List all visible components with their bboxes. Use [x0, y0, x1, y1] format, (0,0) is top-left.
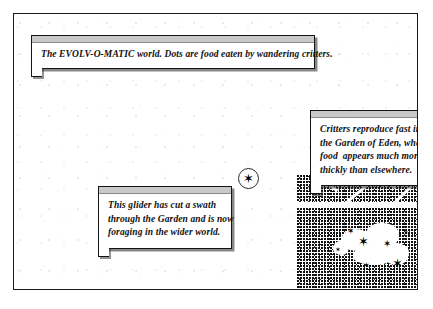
callout-line: thickly than elsewhere.: [320, 164, 418, 178]
callout-fold-corner: [98, 246, 109, 257]
critter-icon: ✶: [347, 227, 355, 236]
callout-glider-text: This glider has cut a swath through the …: [99, 194, 231, 248]
glider-marker: ✶: [238, 168, 259, 189]
callout-titlebar: [32, 36, 314, 43]
critter-icon: ✶: [335, 247, 341, 254]
critter-icon: ✶: [358, 235, 369, 248]
callout-titlebar: [99, 187, 231, 194]
callout-line: through the Garden and is now: [108, 213, 222, 227]
critter-icon: ✶: [383, 239, 391, 249]
callout-line: The EVOLV-O-MATIC world. Dots are food e…: [41, 48, 305, 60]
glider-critter-icon: ✶: [243, 172, 254, 185]
callout-line: the Garden of Eden, where: [320, 137, 418, 151]
callout-world-description: The EVOLV-O-MATIC world. Dots are food e…: [31, 35, 315, 69]
critter-icon: ✶: [403, 230, 409, 237]
critter-icon: ✶: [392, 257, 403, 270]
callout-line: Critters reproduce fast in: [320, 123, 418, 137]
callout-line: foraging in the wider world.: [108, 226, 222, 240]
world-frame: ✶✶✶✶✶✶✶ ✶ The EVOLV-O-MATIC world. Dots …: [13, 13, 418, 290]
callout-fold-corner: [310, 183, 321, 194]
callout-fold-corner: [31, 66, 42, 77]
callout-line: This glider has cut a swath: [108, 199, 222, 213]
critter-icon: ✶: [363, 262, 370, 270]
figure-stage: ✶✶✶✶✶✶✶ ✶ The EVOLV-O-MATIC world. Dots …: [0, 0, 433, 309]
callout-garden-of-eden: Critters reproduce fast in the Garden of…: [310, 110, 418, 186]
callout-line: food appears much more: [320, 150, 418, 164]
callout-world-text: The EVOLV-O-MATIC world. Dots are food e…: [32, 43, 314, 68]
callout-glider: This glider has cut a swath through the …: [98, 186, 232, 249]
callout-titlebar: [311, 111, 418, 118]
callout-eden-text: Critters reproduce fast in the Garden of…: [311, 118, 418, 185]
